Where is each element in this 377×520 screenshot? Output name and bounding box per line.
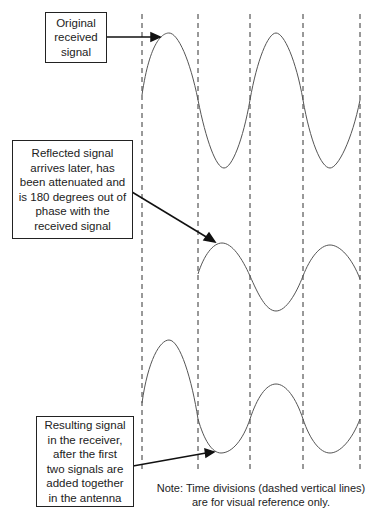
label-resulting-signal: Resulting signal in the receiver, after … xyxy=(36,416,134,507)
label-line: is 180 degrees out of xyxy=(19,190,126,205)
label-line: in the receiver, xyxy=(48,433,123,448)
label-line: after the first xyxy=(53,447,117,462)
label-original-signal: Original received signal xyxy=(45,12,107,63)
label-line: Reflected signal xyxy=(32,146,114,161)
label-line: been attenuated and xyxy=(20,175,126,190)
reflected-signal-wave xyxy=(198,243,360,311)
label-line: two signals are xyxy=(47,462,124,477)
label-line: in the antenna xyxy=(49,491,122,506)
arrow-head-icon xyxy=(204,233,215,242)
note-line: are for visual reference only. xyxy=(146,495,376,509)
arrow-head-icon xyxy=(205,449,214,457)
note-text: Note: Time divisions (dashed vertical li… xyxy=(146,481,376,509)
label-line: arrives later, has xyxy=(30,161,114,176)
label-line: Resulting signal xyxy=(44,418,125,433)
arrow-resulting xyxy=(133,453,206,466)
label-line: received xyxy=(54,30,97,45)
note-line: Note: Time divisions (dashed vertical li… xyxy=(146,481,376,495)
label-line: received signal xyxy=(34,219,111,234)
resulting-signal-wave xyxy=(142,340,360,453)
original-signal-wave xyxy=(142,33,360,168)
label-line: phase with the xyxy=(35,204,109,219)
arrow-reflected xyxy=(132,192,208,238)
label-line: signal xyxy=(61,45,91,60)
time-division-lines xyxy=(142,14,360,472)
label-reflected-signal: Reflected signal arrives later, has been… xyxy=(12,140,133,239)
label-line: added together xyxy=(46,476,123,491)
label-line: Original xyxy=(56,16,96,31)
